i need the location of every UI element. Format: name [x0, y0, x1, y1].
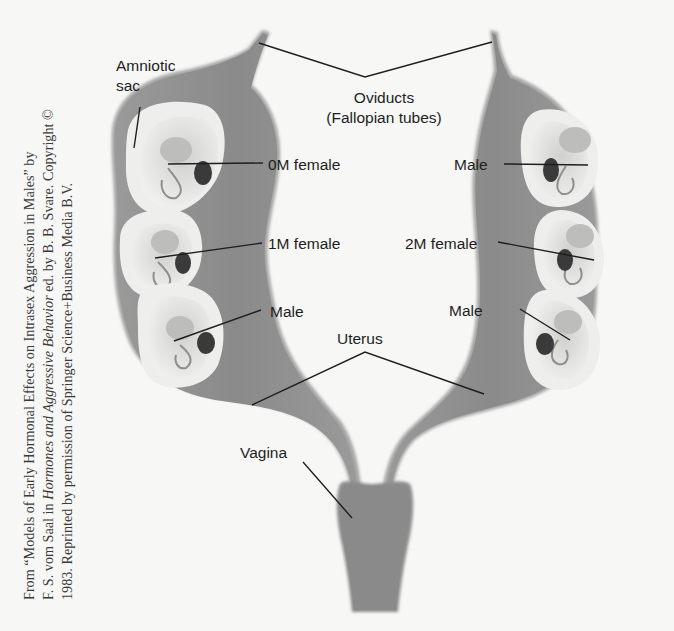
label-right-top-male: Male	[454, 156, 488, 173]
ovary-right-middle	[557, 249, 573, 271]
label-left-male: Male	[270, 303, 304, 320]
label-oviducts: Oviducts	[354, 89, 415, 106]
label-amniotic-sac-2: sac	[116, 77, 140, 94]
left-sac-bottom	[138, 283, 224, 387]
ovary-left-bottom	[197, 332, 215, 354]
ovary-left-top	[194, 161, 212, 185]
ovary-right-bottom	[536, 333, 554, 355]
left-top-leader	[168, 163, 263, 164]
label-amniotic-sac-1: Amniotic	[116, 57, 176, 74]
label-2m-female: 2M female	[405, 235, 477, 252]
label-1m-female: 1M female	[268, 235, 340, 252]
oviducts-leader	[259, 42, 492, 77]
vagina-shape	[337, 481, 413, 612]
label-uterus: Uterus	[337, 330, 383, 347]
label-vagina: Vagina	[240, 444, 287, 461]
label-0m-female: 0M female	[268, 156, 340, 173]
ovary-right-top	[543, 158, 559, 182]
label-right-bottom-male: Male	[449, 302, 483, 319]
uterus-diagram: Amniotic sac Oviducts (Fallopian tubes) …	[0, 0, 674, 631]
right-top-leader	[504, 164, 588, 165]
right-sac-top	[521, 109, 598, 207]
label-fallopian-tubes: (Fallopian tubes)	[326, 109, 441, 126]
